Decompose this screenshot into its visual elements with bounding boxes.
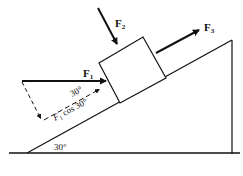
block: [99, 37, 166, 103]
f2-label: F2: [115, 17, 126, 31]
f1-label: F1: [83, 67, 94, 81]
incline-force-diagram: F1 F2 F3 30° F1 cos 30° 30°: [0, 0, 243, 176]
f1-perpendicular-component-dashed: [22, 82, 41, 119]
diagram-svg: F1 F2 F3 30° F1 cos 30° 30°: [0, 0, 243, 176]
component-label: F1 cos 30°: [50, 96, 90, 124]
force-f3-arrow: [156, 30, 199, 53]
incline-angle-label: 30°: [54, 142, 67, 152]
f3-label: F3: [204, 21, 215, 35]
